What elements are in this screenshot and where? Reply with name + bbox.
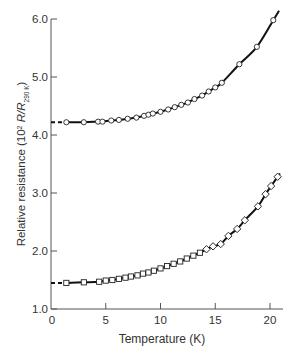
axis-ticks: 1.02.03.04.05.06.005101520 — [32, 13, 276, 326]
circle-marker — [237, 62, 242, 67]
circle-marker — [109, 118, 114, 123]
y-tick-label: 5.0 — [32, 71, 48, 83]
x-tick-label: 15 — [209, 314, 222, 326]
circle-marker — [172, 105, 177, 110]
square-marker — [184, 256, 189, 261]
x-axis-label: Temperature (K) — [119, 332, 206, 346]
fit-curves — [51, 11, 280, 283]
square-marker — [116, 276, 121, 281]
circle-marker — [185, 100, 190, 105]
square-marker — [123, 275, 128, 280]
square-marker — [103, 278, 108, 283]
circle-marker — [125, 116, 130, 121]
square-marker — [158, 266, 163, 271]
square-marker — [151, 268, 156, 273]
square-marker — [81, 280, 86, 285]
x-tick-label: 5 — [103, 314, 109, 326]
circle-marker — [206, 89, 211, 94]
square-marker — [178, 259, 183, 264]
y-axis-label-sub: 290 K — [23, 85, 30, 103]
square-marker — [171, 261, 176, 266]
square-marker — [191, 253, 196, 258]
square-marker — [197, 250, 202, 255]
y-axis-label-mid: R/R — [15, 102, 27, 125]
y-axis-label-prefix: Relative resistance (10 — [15, 129, 27, 246]
circle-marker — [100, 119, 105, 124]
square-marker — [164, 263, 169, 268]
circle-marker — [254, 44, 259, 49]
y-tick-label: 1.0 — [32, 303, 48, 315]
y-tick-label: 4.0 — [32, 129, 48, 141]
circle-marker — [192, 96, 197, 101]
circle-marker — [179, 102, 184, 107]
square-marker — [128, 274, 133, 279]
square-marker — [110, 277, 115, 282]
circle-marker — [213, 85, 218, 90]
circle-marker — [116, 117, 121, 122]
y-tick-label: 2.0 — [32, 245, 48, 257]
circle-marker — [64, 120, 69, 125]
circle-marker — [166, 107, 171, 112]
circle-marker — [200, 93, 205, 98]
circle-marker — [150, 111, 155, 116]
y-tick-label: 3.0 — [32, 187, 48, 199]
x-tick-label: 20 — [264, 314, 277, 326]
x-tick-label: 10 — [154, 314, 167, 326]
square-marker — [140, 271, 145, 276]
y-axis-label: Relative resistance (102 R/R290 K) — [15, 81, 30, 246]
circle-marker — [134, 115, 139, 120]
circle-marker — [219, 80, 224, 85]
square-marker — [135, 273, 140, 278]
square-marker — [97, 279, 102, 284]
square-marker — [64, 280, 69, 285]
square-marker — [209, 243, 216, 250]
square-marker — [146, 270, 151, 275]
data-markers — [64, 18, 282, 286]
circle-marker — [271, 18, 276, 23]
square-marker — [203, 246, 210, 253]
y-tick-label: 6.0 — [32, 13, 48, 25]
circle-marker — [81, 120, 86, 125]
x-tick-label: 0 — [49, 314, 55, 326]
y-axis-label-suffix: ) — [15, 81, 27, 85]
circle-marker — [158, 109, 163, 114]
resistance-temperature-chart: 1.02.03.04.05.06.005101520 Temperature (… — [0, 0, 297, 355]
